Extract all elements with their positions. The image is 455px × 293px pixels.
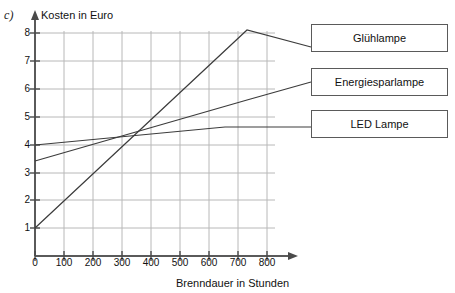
legend-box-energiesparlampe: Energiesparlampe (311, 68, 448, 96)
legend-label-gluehlampe: Glühlampe (353, 32, 406, 44)
series-lines (35, 30, 311, 228)
y-tick-2: 2 (14, 194, 30, 205)
x-tick-800: 800 (250, 257, 284, 268)
series-line-energiesparlampe (35, 82, 311, 161)
chart-figure: c) Kosten in Euro Brenndauer in Stunden (0, 0, 455, 293)
y-tick-5: 5 (14, 111, 30, 122)
y-tick-1: 1 (14, 222, 30, 233)
y-tick-7: 7 (14, 55, 30, 66)
legend-label-energiesparlampe: Energiesparlampe (335, 76, 424, 88)
series-line-gluehlampe (35, 30, 311, 228)
y-tick-6: 6 (14, 83, 30, 94)
grid-lines-horizontal (35, 33, 275, 228)
series-line-led-lampe (35, 127, 311, 145)
legend-label-led-lampe: LED Lampe (350, 118, 408, 130)
y-tick-8: 8 (14, 27, 30, 38)
y-tick-3: 3 (14, 167, 30, 178)
legend-box-gluehlampe: Glühlampe (311, 24, 448, 52)
y-tick-4: 4 (14, 139, 30, 150)
y-axis (31, 10, 39, 256)
legend-box-led-lampe: LED Lampe (311, 110, 448, 138)
